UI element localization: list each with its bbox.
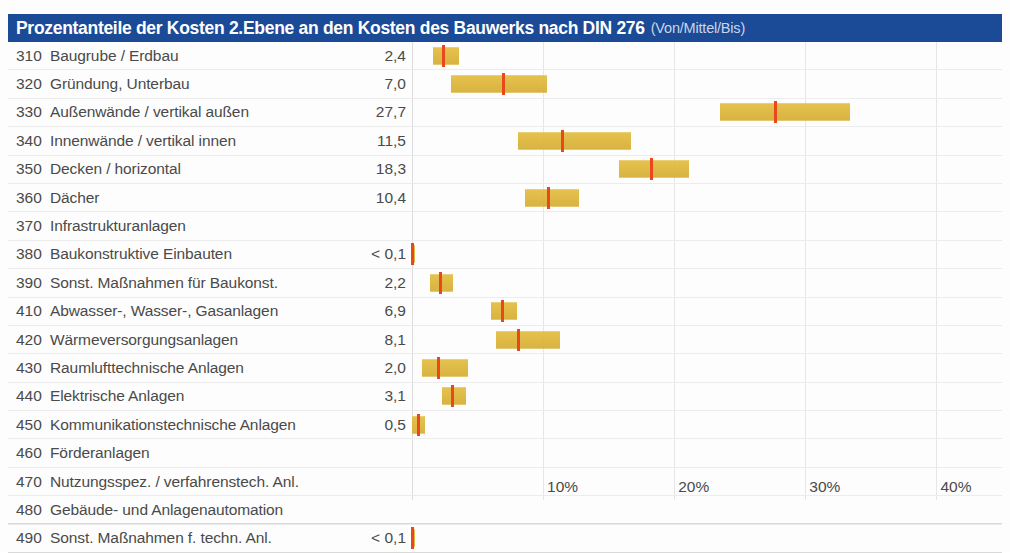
row-label: Baugrube / Erdbau — [50, 47, 320, 65]
row-code: 320 — [8, 75, 50, 93]
median-marker — [502, 73, 505, 95]
chart-title-bar: Prozentanteile der Kosten 2.Ebene an den… — [8, 14, 1002, 42]
row-label: Nutzungsspez. / verfahrenstech. Anl. — [50, 473, 320, 491]
row-value: 3,1 — [320, 387, 412, 405]
row-bar-track — [412, 70, 1002, 97]
table-row[interactable]: 490Sonst. Maßnahmen f. techn. Anl.< 0,1 — [8, 525, 1002, 553]
row-label: Decken / horizontal — [50, 160, 320, 178]
row-code: 420 — [8, 331, 50, 349]
row-code: 390 — [8, 274, 50, 292]
row-code: 460 — [8, 444, 50, 462]
row-code: 310 — [8, 47, 50, 65]
row-bar-track — [412, 156, 1002, 183]
table-row[interactable]: 470Nutzungsspez. / verfahrenstech. Anl. — [8, 468, 1002, 496]
row-bar-track — [412, 42, 1002, 69]
row-label: Abwasser-, Wasser-, Gasanlagen — [50, 302, 320, 320]
median-marker — [411, 527, 414, 549]
row-bar-track — [412, 269, 1002, 296]
table-row[interactable]: 330Außenwände / vertikal außen27,7 — [8, 99, 1002, 127]
row-code: 410 — [8, 302, 50, 320]
x-tick-label-30: 30% — [809, 478, 840, 496]
table-row[interactable]: 310Baugrube / Erdbau2,4 — [8, 42, 1002, 70]
median-marker — [442, 45, 445, 67]
row-bar-track — [412, 354, 1002, 381]
range-bar — [619, 161, 688, 178]
median-marker — [411, 243, 414, 265]
table-row[interactable]: 420Wärmeversorgungsanlagen8,1 — [8, 326, 1002, 354]
axis-baseline — [8, 523, 1002, 524]
row-value: 2,2 — [320, 274, 412, 292]
x-tick-label-20: 20% — [678, 478, 709, 496]
median-marker — [451, 385, 454, 407]
table-row[interactable]: 370Infrastrukturanlagen — [8, 212, 1002, 240]
table-row[interactable]: 450Kommunikationstechnische Anlagen0,5 — [8, 411, 1002, 439]
row-code: 370 — [8, 217, 50, 235]
row-value: 2,4 — [320, 47, 412, 65]
row-bar-track — [412, 298, 1002, 325]
row-label: Elektrische Anlagen — [50, 387, 320, 405]
row-label: Gründung, Unterbau — [50, 75, 320, 93]
row-value: 2,0 — [320, 359, 412, 377]
range-bar — [422, 359, 468, 376]
row-value: < 0,1 — [320, 245, 412, 263]
row-code: 470 — [8, 473, 50, 491]
row-code: 430 — [8, 359, 50, 377]
row-bar-track — [412, 212, 1002, 239]
row-label: Raumlufttechnische Anlagen — [50, 359, 320, 377]
row-code: 450 — [8, 416, 50, 434]
chart-rows: 310Baugrube / Erdbau2,4320Gründung, Unte… — [8, 42, 1002, 553]
row-label: Förderanlagen — [50, 444, 320, 462]
row-bar-track — [412, 525, 1002, 552]
row-label: Sonst. Maßnahmen f. techn. Anl. — [50, 529, 320, 547]
range-bar — [496, 331, 560, 348]
row-label: Wärmeversorgungsanlagen — [50, 331, 320, 349]
median-marker — [650, 158, 653, 180]
chart-subtitle: (Von/Mittel/Bis) — [651, 20, 745, 36]
row-label: Infrastrukturanlagen — [50, 217, 320, 235]
median-marker — [417, 414, 420, 436]
row-value: 7,0 — [320, 75, 412, 93]
table-row[interactable]: 410Abwasser-, Wasser-, Gasanlagen6,9 — [8, 298, 1002, 326]
median-marker — [439, 272, 442, 294]
row-label: Außenwände / vertikal außen — [50, 103, 320, 121]
row-code: 440 — [8, 387, 50, 405]
table-row[interactable]: 320Gründung, Unterbau7,0 — [8, 70, 1002, 98]
row-bar-track — [412, 241, 1002, 268]
row-label: Kommunikationstechnische Anlagen — [50, 416, 320, 434]
row-value: 0,5 — [320, 416, 412, 434]
table-row[interactable]: 440Elektrische Anlagen3,1 — [8, 383, 1002, 411]
median-marker — [547, 187, 550, 209]
row-code: 360 — [8, 189, 50, 207]
table-row[interactable]: 430Raumlufttechnische Anlagen2,0 — [8, 354, 1002, 382]
row-value: < 0,1 — [320, 529, 412, 547]
range-bar — [451, 76, 547, 93]
chart-title: Prozentanteile der Kosten 2.Ebene an den… — [16, 18, 645, 39]
table-row[interactable]: 460Förderanlagen — [8, 439, 1002, 467]
range-bar — [433, 47, 459, 64]
median-marker — [561, 130, 564, 152]
row-bar-track — [412, 127, 1002, 154]
median-marker — [437, 357, 440, 379]
table-row[interactable]: 360Dächer10,4 — [8, 184, 1002, 212]
median-marker — [774, 101, 777, 123]
table-row[interactable]: 390Sonst. Maßnahmen für Baukonst.2,2 — [8, 269, 1002, 297]
range-bar — [720, 104, 850, 121]
row-label: Innenwände / vertikal innen — [50, 132, 320, 150]
chart-body: 310Baugrube / Erdbau2,4320Gründung, Unte… — [8, 42, 1002, 526]
row-value: 10,4 — [320, 189, 412, 207]
table-row[interactable]: 350Decken / horizontal18,3 — [8, 156, 1002, 184]
table-row[interactable]: 380Baukonstruktive Einbauten< 0,1 — [8, 241, 1002, 269]
row-value: 11,5 — [320, 132, 412, 150]
row-bar-track — [412, 184, 1002, 211]
row-bar-track — [412, 439, 1002, 466]
row-code: 490 — [8, 529, 50, 547]
row-value: 18,3 — [320, 160, 412, 178]
median-marker — [517, 329, 520, 351]
row-label: Baukonstruktive Einbauten — [50, 245, 320, 263]
range-bar — [525, 189, 579, 206]
median-marker — [501, 300, 504, 322]
table-row[interactable]: 340Innenwände / vertikal innen11,5 — [8, 127, 1002, 155]
range-bar — [518, 132, 631, 149]
row-label: Dächer — [50, 189, 320, 207]
